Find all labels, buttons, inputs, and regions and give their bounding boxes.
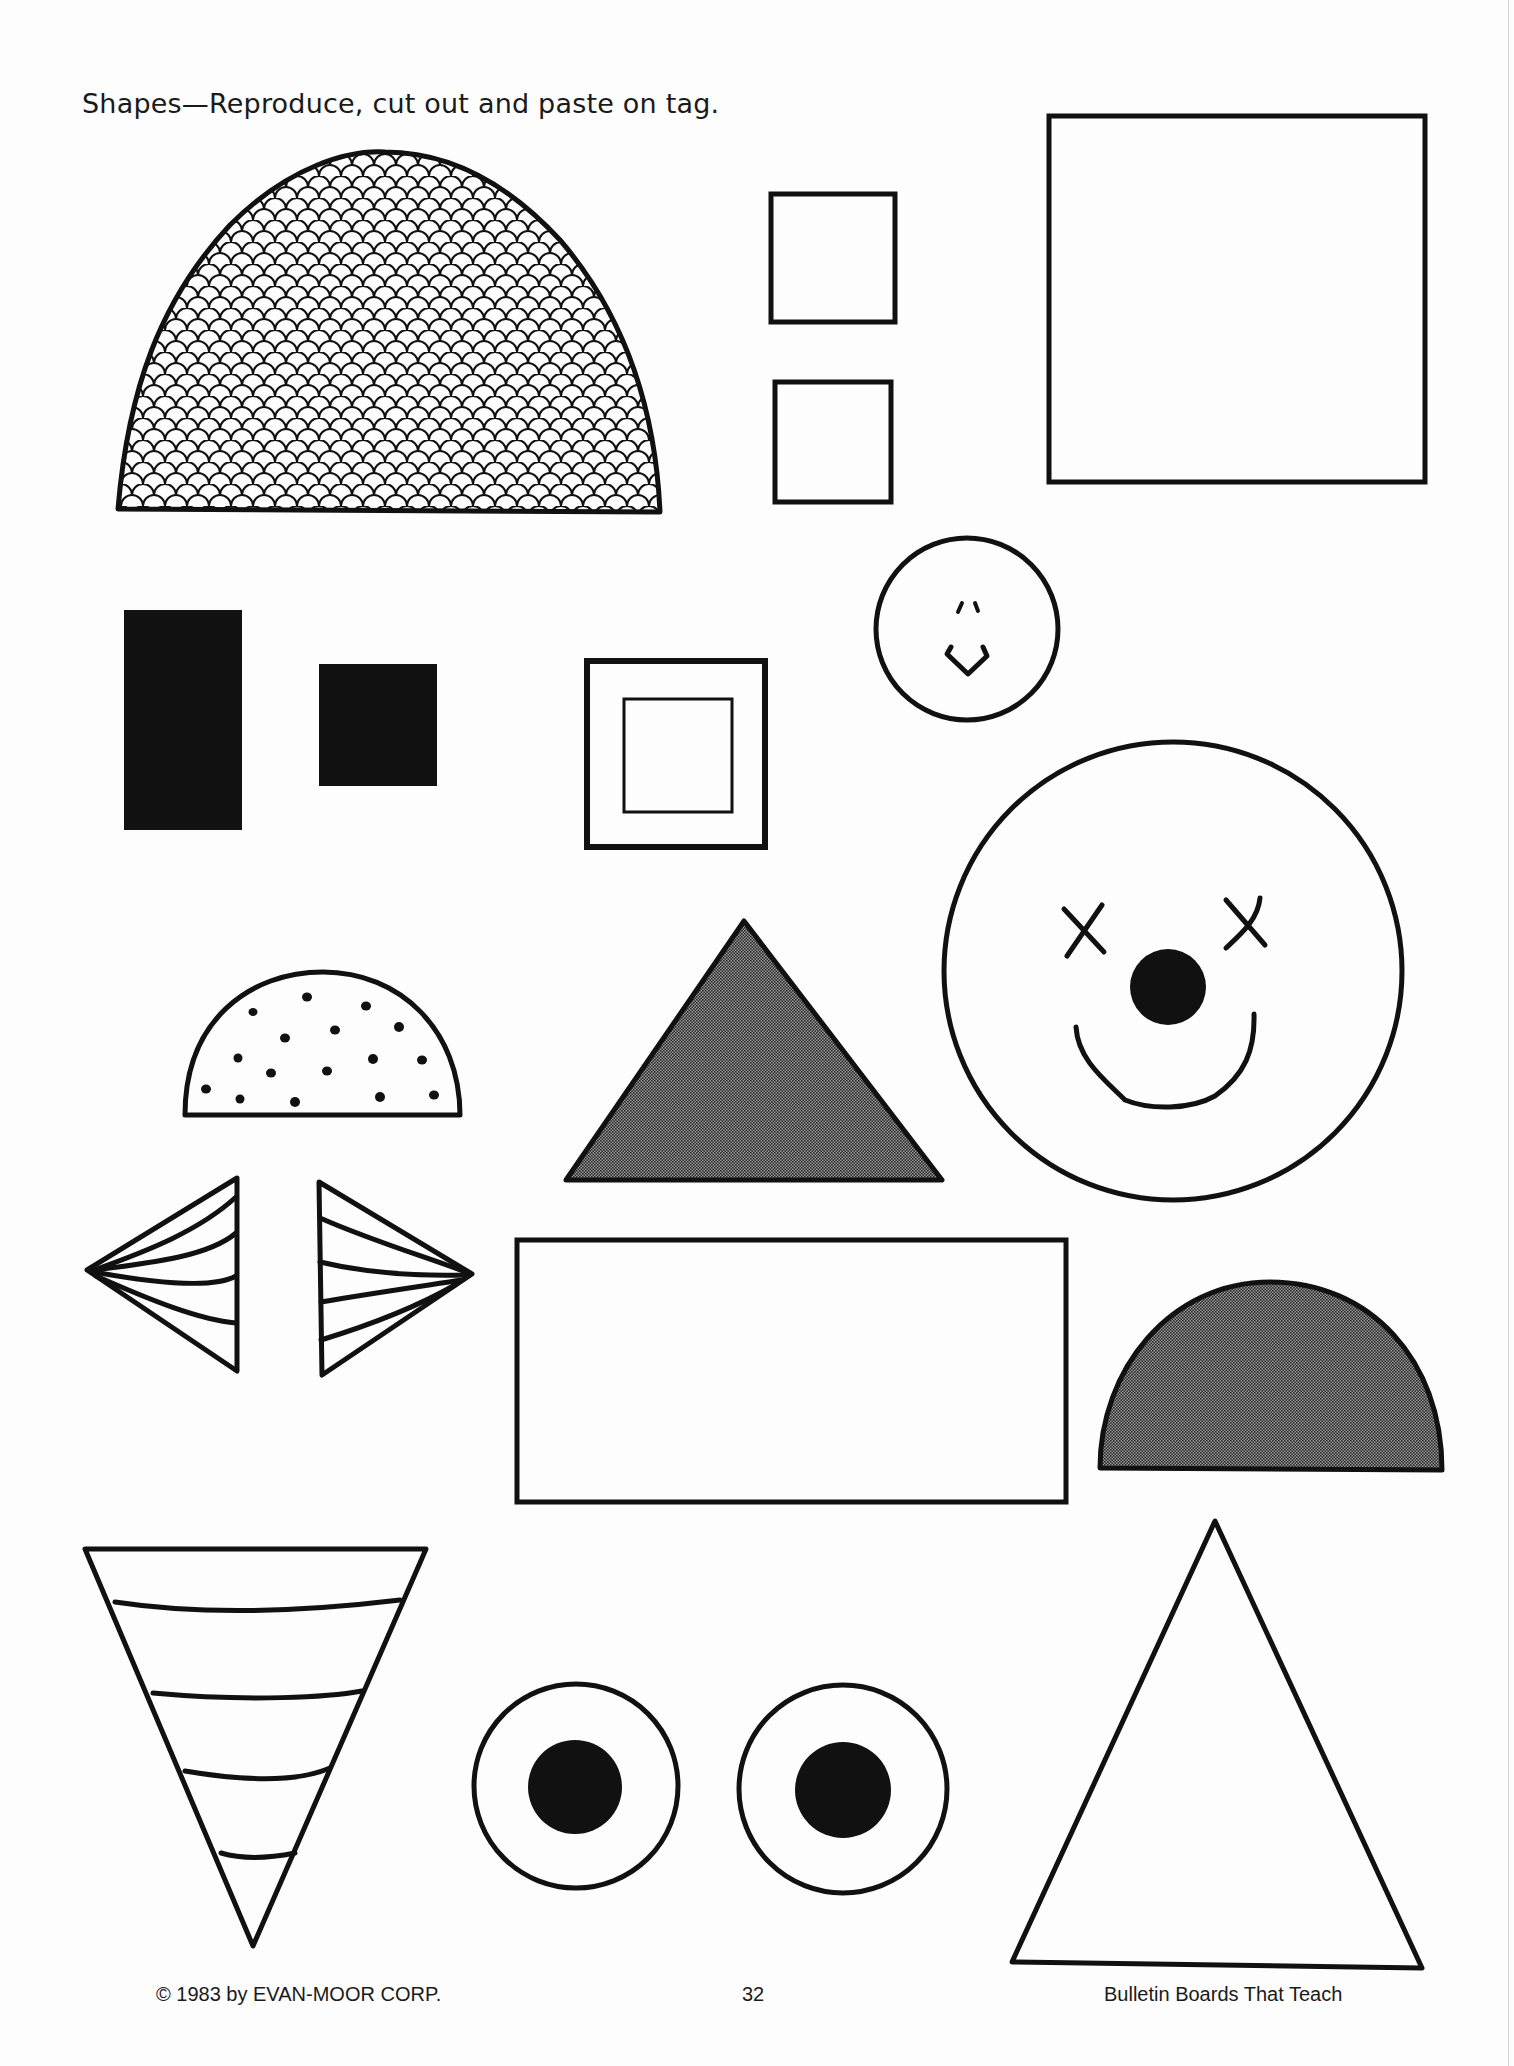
- framed-square-shape: [587, 661, 765, 847]
- large-triangle-shape: [1012, 1521, 1422, 1968]
- striped-cone-shape: [85, 1549, 426, 1946]
- gray-half-circle-shape: [1100, 1282, 1442, 1470]
- dotted-half-circle-shape: [185, 972, 460, 1115]
- page-number: 32: [742, 1983, 764, 2006]
- copyright-notice: © 1983 by EVAN-MOOR CORP.: [156, 1983, 441, 2006]
- small-square-top-shape: [771, 194, 895, 322]
- scalloped-dome-shape: [118, 152, 660, 512]
- left-bow-wing-shape: [87, 1178, 237, 1371]
- large-square-shape: [1049, 116, 1425, 482]
- page-edge-line: [1508, 0, 1509, 2066]
- right-eye-shape: [739, 1685, 947, 1893]
- gray-triangle-shape: [566, 921, 942, 1180]
- small-black-square-shape: [319, 664, 437, 786]
- book-title: Bulletin Boards That Teach: [1104, 1983, 1342, 2006]
- wide-rectangle-shape: [517, 1240, 1066, 1502]
- small-smiley-face-shape: [876, 538, 1058, 720]
- left-eye-shape: [474, 1684, 678, 1888]
- shapes-canvas: [0, 0, 1514, 2066]
- right-bow-wing-shape: [319, 1182, 472, 1375]
- worksheet-page: Shapes—Reproduce, cut out and paste on t…: [0, 0, 1514, 2066]
- small-square-bottom-shape: [775, 382, 891, 502]
- tall-black-rectangle-shape: [124, 610, 242, 830]
- clown-face-shape: [944, 742, 1402, 1200]
